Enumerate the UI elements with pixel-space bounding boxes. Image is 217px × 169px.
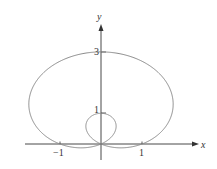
- x-tick-label-neg1: −1: [53, 147, 64, 158]
- polar-plot: x y −1 1 1 3: [0, 0, 217, 169]
- x-tick-label-1: 1: [139, 147, 144, 158]
- y-axis-arrow-icon: [99, 24, 104, 31]
- y-tick-label-3: 3: [94, 46, 99, 57]
- y-tick-label-1: 1: [94, 104, 99, 115]
- y-axis-label: y: [96, 11, 102, 22]
- x-axis-label: x: [200, 139, 206, 150]
- x-axis-arrow-icon: [192, 142, 199, 147]
